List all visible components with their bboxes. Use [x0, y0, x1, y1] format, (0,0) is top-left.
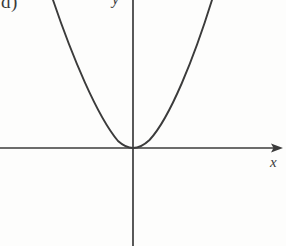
parabola-figure: d) y x — [0, 0, 286, 246]
y-axis-label: y — [112, 0, 119, 7]
part-label: d) — [1, 0, 18, 11]
x-axis-label: x — [270, 155, 277, 170]
graph-canvas — [0, 0, 286, 246]
